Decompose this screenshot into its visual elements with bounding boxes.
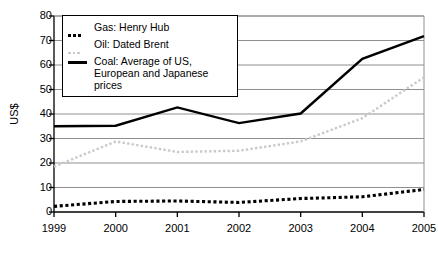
dotted-marker	[68, 22, 88, 34]
legend-item-label: Gas: Henry Hub	[94, 21, 169, 33]
legend-item: Coal: Average of US, European and Japane…	[68, 55, 233, 91]
legend-item: Gas: Henry Hub	[68, 21, 233, 34]
legend: Gas: Henry HubOil: Dated BrentCoal: Aver…	[62, 15, 238, 97]
series-line-0	[54, 189, 424, 206]
legend-item: Oil: Dated Brent	[68, 38, 233, 51]
solid-line-marker	[68, 56, 88, 68]
dotted-light-marker	[68, 39, 88, 51]
legend-item-label: Coal: Average of US, European and Japane…	[94, 55, 233, 91]
energy-price-chart: US$ 80706050403020100 199920002001200220…	[0, 0, 438, 255]
legend-item-label: Oil: Dated Brent	[94, 38, 169, 50]
